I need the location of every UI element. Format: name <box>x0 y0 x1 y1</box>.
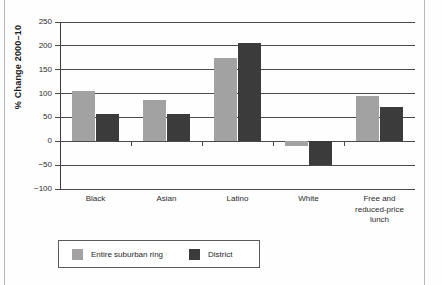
legend-swatch-icon-entire-suburban-ring <box>72 249 83 260</box>
legend-entry-district: District <box>189 249 232 260</box>
legend-label-district: District <box>208 250 232 259</box>
legend-swatch-icon-district <box>189 249 200 260</box>
y-tick-label: 100 <box>39 90 52 98</box>
bar[interactable] <box>380 107 403 141</box>
y-tick-label: −50 <box>38 161 52 169</box>
plot-area <box>60 22 415 189</box>
frame-rule-left <box>4 0 5 285</box>
bar-group <box>344 22 415 189</box>
legend-label-entire-suburban-ring: Entire suburban ring <box>91 250 163 259</box>
x-axis-label-line: reduced-price <box>355 205 404 214</box>
bar-group <box>202 22 273 189</box>
bar-group <box>131 22 202 189</box>
chart-legend: Entire suburban ring District <box>58 240 260 268</box>
bar[interactable] <box>96 114 119 142</box>
legend-entry-entire-suburban-ring: Entire suburban ring <box>72 249 163 260</box>
bar[interactable] <box>72 91 95 141</box>
x-axis-label-line: lunch <box>370 215 389 224</box>
x-axis-label: Latino <box>202 194 273 205</box>
x-axis-label: Free andreduced-pricelunch <box>344 194 415 226</box>
bar[interactable] <box>285 141 308 146</box>
y-tick-label: 250 <box>39 18 52 26</box>
y-tick-label: 150 <box>39 66 52 74</box>
y-tick-label: 50 <box>43 113 52 121</box>
y-tick-label-group: 250200150100500−50−100 <box>22 22 52 189</box>
x-axis-label-group: BlackAsianLatinoWhiteFree andreduced-pri… <box>60 194 415 240</box>
x-axis-label-line: Asian <box>156 194 176 203</box>
bar[interactable] <box>167 114 190 142</box>
bar[interactable] <box>238 43 261 141</box>
x-axis-label: White <box>273 194 344 205</box>
frame-rule-right <box>424 0 425 285</box>
chart-figure: % Change 2000–10 250200150100500−50−100 … <box>0 0 442 285</box>
y-tick-label: 0 <box>48 137 52 145</box>
bar[interactable] <box>356 96 379 141</box>
x-axis-label-line: Black <box>86 194 106 203</box>
x-axis-label-line: White <box>298 194 318 203</box>
y-tick-label: −100 <box>34 185 52 193</box>
bar-group <box>60 22 131 189</box>
bar[interactable] <box>143 100 166 142</box>
y-tick-label: 200 <box>39 42 52 50</box>
x-axis-label-line: Latino <box>227 194 249 203</box>
bar[interactable] <box>309 141 332 165</box>
x-axis-label: Black <box>60 194 131 205</box>
bar-group <box>273 22 344 189</box>
bar[interactable] <box>214 58 237 142</box>
x-axis-label-line: Free and <box>363 194 395 203</box>
x-axis-label: Asian <box>131 194 202 205</box>
